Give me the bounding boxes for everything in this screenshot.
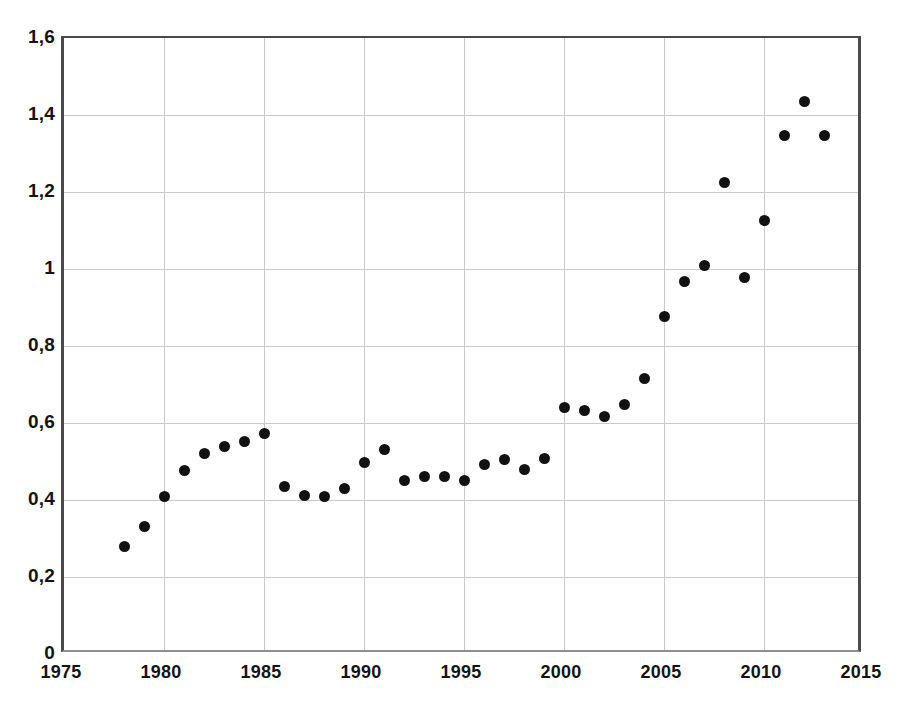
data-point [559, 402, 570, 413]
data-point [619, 399, 630, 410]
data-point [419, 471, 430, 482]
data-point [339, 483, 350, 494]
data-point [719, 177, 730, 188]
data-point [659, 311, 670, 322]
gridline-y-0-4 [64, 500, 858, 501]
y-tick-label: 0 [0, 643, 55, 662]
y-tick-label: 1,2 [0, 181, 55, 200]
data-point [499, 454, 510, 465]
data-point [139, 521, 150, 532]
plot-area [61, 36, 861, 652]
data-point [279, 481, 290, 492]
data-point [599, 411, 610, 422]
y-tick-label: 1,6 [0, 27, 55, 46]
data-point [119, 541, 130, 552]
gridline-x-2000 [564, 38, 565, 650]
gridline-y-1-4 [64, 115, 858, 116]
data-point [679, 276, 690, 287]
data-point [179, 465, 190, 476]
x-tick-label: 1990 [321, 663, 401, 681]
y-tick-label: 0,2 [0, 566, 55, 585]
x-tick-label: 2010 [721, 663, 801, 681]
gridline-x-2005 [664, 38, 665, 650]
data-point [639, 373, 650, 384]
data-point [779, 130, 790, 141]
y-tick-label: 1,4 [0, 104, 55, 123]
x-tick-label: 1995 [421, 663, 501, 681]
data-point [219, 441, 230, 452]
data-point [399, 475, 410, 486]
data-point [739, 272, 750, 283]
data-point [319, 491, 330, 502]
y-tick-label: 1 [0, 258, 55, 277]
data-point [819, 130, 830, 141]
data-point [199, 448, 210, 459]
data-point [799, 96, 810, 107]
gridline-y-1 [64, 269, 858, 270]
data-point [519, 464, 530, 475]
x-tick-label: 1985 [221, 663, 301, 681]
gridline-y-0-2 [64, 577, 858, 578]
data-point [439, 471, 450, 482]
data-point [459, 475, 470, 486]
data-point [159, 491, 170, 502]
x-tick-label: 2015 [821, 663, 898, 681]
gridline-y-0-6 [64, 423, 858, 424]
y-tick-label: 0,6 [0, 412, 55, 431]
data-point [239, 436, 250, 447]
data-point [299, 490, 310, 501]
data-point [479, 459, 490, 470]
data-point [699, 260, 710, 271]
x-tick-label: 2005 [621, 663, 701, 681]
data-point [539, 453, 550, 464]
gridline-x-2010 [764, 38, 765, 650]
data-point [259, 428, 270, 439]
x-tick-label: 2000 [521, 663, 601, 681]
y-tick-label: 0,8 [0, 335, 55, 354]
gridline-x-1980 [164, 38, 165, 650]
data-point [359, 457, 370, 468]
gridline-x-1990 [364, 38, 365, 650]
gridline-x-1995 [464, 38, 465, 650]
gridline-y-0-8 [64, 346, 858, 347]
data-point [579, 405, 590, 416]
chart-container: 00,20,40,60,811,21,41,6 1975198019851990… [0, 0, 898, 706]
x-tick-label: 1975 [21, 663, 101, 681]
data-point [759, 215, 770, 226]
gridline-x-1985 [264, 38, 265, 650]
y-tick-label: 0,4 [0, 489, 55, 508]
gridline-y-1-2 [64, 192, 858, 193]
x-tick-label: 1980 [121, 663, 201, 681]
data-point [379, 444, 390, 455]
